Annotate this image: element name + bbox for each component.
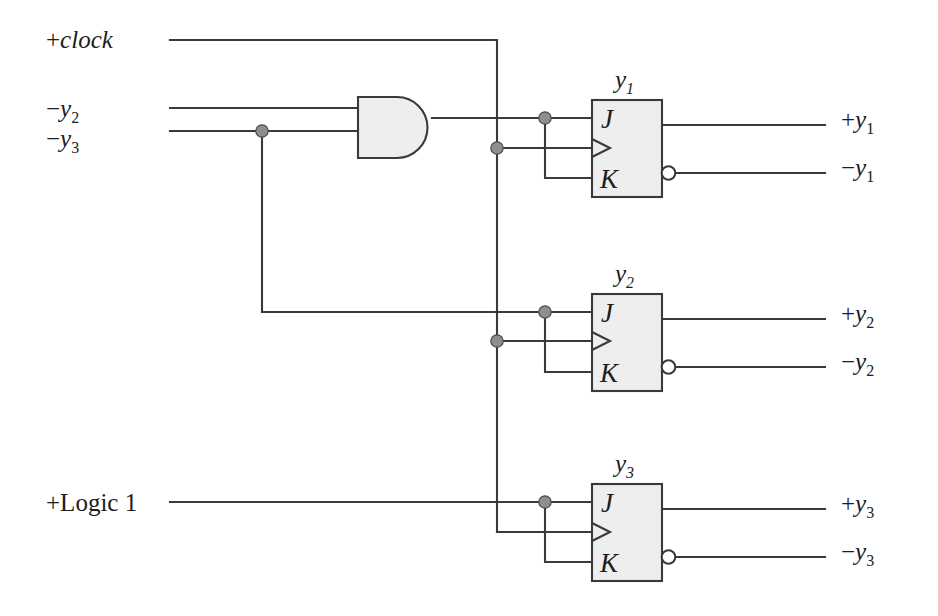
- output-label-py1-sign: +: [841, 106, 855, 133]
- output-label-py3: +y3: [841, 490, 874, 521]
- output-label-ny1: −y1: [841, 154, 874, 185]
- output-label-ny3-name: y: [852, 538, 867, 565]
- and-gate-1: [358, 97, 427, 158]
- flipflop-y1-j-pin-label: J: [601, 104, 615, 134]
- output-label-py2-sign: +: [841, 300, 855, 327]
- output-label-py2-name: y: [852, 300, 867, 327]
- input-label-ny2-sub: 2: [71, 109, 79, 126]
- wire-layer: [170, 40, 825, 562]
- output-label-ny3: −y3: [841, 538, 874, 569]
- output-label-ny3-sub: 3: [866, 552, 874, 569]
- output-label-ny2: −y2: [841, 348, 874, 379]
- flipflop-y1-k-pin-label: K: [599, 164, 620, 194]
- input-label-ny3: −y3: [46, 125, 79, 156]
- junction-ff3-jk: [539, 496, 551, 508]
- input-label-logic1: +Logic 1: [46, 489, 137, 516]
- output-label-py1: +y1: [841, 106, 874, 137]
- flipflop-y2-k-pin-label: K: [599, 358, 620, 388]
- output-label-py1-sub: 1: [866, 120, 874, 137]
- junction-ff1-clock: [491, 142, 503, 154]
- output-label-py2-sub: 2: [866, 314, 874, 331]
- flipflop-y2-title: y2: [612, 260, 634, 291]
- flipflop-y2: J K y2: [592, 260, 675, 391]
- output-label-ny2-sign: −: [841, 348, 855, 375]
- output-label-ny2-sub: 2: [866, 362, 874, 379]
- output-labels: +y1 −y1 +y2 −y2 +y3 −y3: [841, 106, 874, 569]
- input-label-ny3-name: y: [57, 125, 72, 152]
- input-label-ny3-sign: −: [46, 125, 60, 152]
- flipflop-y3-title: y3: [612, 450, 634, 481]
- junction-ff2-clock: [491, 335, 503, 347]
- flipflop-y3-j-pin-label: J: [601, 488, 615, 518]
- output-label-ny1-sub: 1: [866, 168, 874, 185]
- junction-layer: [256, 112, 551, 508]
- output-label-py2: +y2: [841, 300, 874, 331]
- output-label-py3-name: y: [852, 490, 867, 517]
- wire-clock-bus: [170, 40, 497, 532]
- input-label-ny2-name: y: [57, 95, 72, 122]
- flipflop-y3: J K y3: [592, 450, 675, 581]
- junction-ny3-branch: [256, 125, 268, 137]
- input-label-ny3-sub: 3: [71, 139, 79, 156]
- junction-ff2-jk: [539, 306, 551, 318]
- flipflop-y1: J K y1: [592, 66, 675, 197]
- output-label-py3-sign: +: [841, 490, 855, 517]
- output-label-ny1-name: y: [852, 154, 867, 181]
- output-label-py1-name: y: [852, 106, 867, 133]
- input-label-clock-text: +: [46, 26, 60, 53]
- flipflop-y2-invert-bubble: [662, 360, 676, 374]
- flipflop-y3-k-pin-label: K: [599, 548, 620, 578]
- input-labels: +clock −y2 −y3 +Logic 1: [46, 26, 137, 516]
- wire-ny3-branch-to-ff2: [262, 131, 592, 312]
- input-label-logic1-sign: +: [46, 489, 60, 516]
- input-label-clock: +clock: [46, 26, 114, 53]
- output-label-py3-sub: 3: [866, 504, 874, 521]
- flipflop-y1-invert-bubble: [662, 166, 676, 180]
- and-gate-body: [358, 97, 427, 158]
- input-label-clock-name: clock: [60, 26, 114, 53]
- flipflop-y3-invert-bubble: [662, 550, 676, 564]
- circuit-diagram-canvas: J K y1 J K y2 J K y3: [0, 0, 938, 616]
- input-label-ny2-sign: −: [46, 95, 60, 122]
- output-label-ny3-sign: −: [841, 538, 855, 565]
- flipflop-y1-title: y1: [612, 66, 634, 97]
- circuit-svg: J K y1 J K y2 J K y3: [0, 0, 938, 616]
- junction-ff1-jk: [539, 112, 551, 124]
- input-label-ny2: −y2: [46, 95, 79, 126]
- output-label-ny1-sign: −: [841, 154, 855, 181]
- flipflop-y2-j-pin-label: J: [601, 298, 615, 328]
- output-label-ny2-name: y: [852, 348, 867, 375]
- input-label-logic1-name: Logic 1: [60, 489, 137, 516]
